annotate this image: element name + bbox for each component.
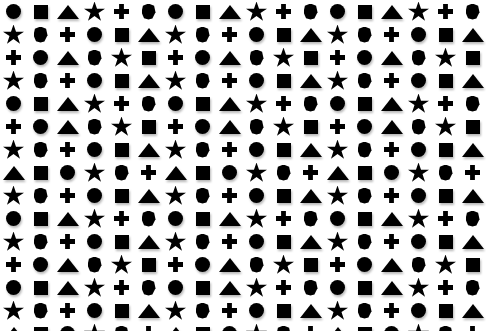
shape-cell (407, 184, 430, 207)
shape-cell (29, 184, 52, 207)
square-icon (115, 304, 129, 318)
shape-cell (299, 299, 322, 322)
circle-icon (195, 50, 210, 65)
triangle-icon (381, 5, 403, 19)
triangle-icon (300, 189, 322, 203)
square-icon (196, 97, 210, 111)
shape-cell (29, 69, 52, 92)
circle-icon (249, 234, 264, 249)
shape-cell (245, 46, 268, 69)
shape-row (0, 0, 486, 23)
shape-cell (407, 23, 430, 46)
square-icon (277, 74, 291, 88)
shape-cell (407, 0, 430, 23)
shape-cell (137, 322, 160, 331)
shape-cell (110, 322, 133, 331)
star-icon (165, 140, 186, 160)
shape-cell (56, 253, 79, 276)
shape-cell (110, 0, 133, 23)
square-icon (466, 120, 480, 134)
shape-cell (272, 23, 295, 46)
hexagon-icon (196, 142, 210, 158)
shape-cell (164, 92, 187, 115)
plus-icon (6, 50, 21, 65)
triangle-icon (462, 304, 484, 318)
shape-cell (245, 230, 268, 253)
square-icon (439, 304, 453, 318)
shape-cell (299, 184, 322, 207)
shape-cell (326, 92, 349, 115)
shape-cell (407, 322, 430, 331)
circle-icon (330, 4, 345, 19)
shape-cell (110, 184, 133, 207)
shape-cell (83, 184, 106, 207)
plus-icon (222, 188, 237, 203)
shape-cell (191, 184, 214, 207)
star-icon (408, 94, 429, 114)
circle-icon (222, 326, 237, 331)
shape-cell (2, 115, 25, 138)
star-icon (3, 25, 24, 45)
star-icon (327, 301, 348, 321)
shape-cell (326, 299, 349, 322)
shape-row (0, 299, 486, 322)
shape-cell (110, 253, 133, 276)
hexagon-icon (439, 326, 453, 331)
hexagon-icon (358, 142, 372, 158)
shape-row (0, 276, 486, 299)
shape-cell (407, 138, 430, 161)
shape-cell (434, 46, 457, 69)
plus-icon (222, 73, 237, 88)
shape-cell (164, 276, 187, 299)
shape-cell (218, 138, 241, 161)
triangle-icon (57, 281, 79, 295)
plus-icon (276, 211, 291, 226)
shape-cell (272, 138, 295, 161)
shape-cell (2, 230, 25, 253)
circle-icon (384, 326, 399, 331)
circle-icon (222, 165, 237, 180)
triangle-icon (300, 304, 322, 318)
circle-icon (33, 119, 48, 134)
shape-cell (110, 161, 133, 184)
shape-cell (83, 207, 106, 230)
shape-cell (83, 322, 106, 331)
shape-cell (434, 322, 457, 331)
triangle-icon (219, 97, 241, 111)
plus-icon (141, 165, 156, 180)
shape-cell (353, 230, 376, 253)
square-icon (196, 212, 210, 226)
shape-cell (245, 0, 268, 23)
shape-cell (434, 276, 457, 299)
hexagon-icon (250, 50, 264, 66)
star-icon (408, 209, 429, 229)
circle-icon (384, 165, 399, 180)
star-icon (3, 232, 24, 252)
plus-icon (114, 211, 129, 226)
star-icon (246, 209, 267, 229)
square-icon (439, 143, 453, 157)
hexagon-icon (358, 234, 372, 250)
shape-cell (380, 161, 403, 184)
triangle-icon (57, 5, 79, 19)
shape-cell (461, 161, 484, 184)
shape-cell (272, 322, 295, 331)
shape-cell (299, 115, 322, 138)
shape-cell (299, 92, 322, 115)
shape-cell (299, 230, 322, 253)
shape-cell (299, 253, 322, 276)
shape-cell (272, 276, 295, 299)
circle-icon (330, 96, 345, 111)
shape-cell (380, 115, 403, 138)
hexagon-icon (304, 211, 318, 227)
shape-row (0, 92, 486, 115)
hexagon-icon (304, 96, 318, 112)
square-icon (439, 74, 453, 88)
shape-cell (137, 46, 160, 69)
shape-cell (2, 161, 25, 184)
circle-icon (87, 73, 102, 88)
shape-cell (110, 138, 133, 161)
shape-cell (461, 276, 484, 299)
star-icon (435, 48, 456, 68)
shape-cell (353, 299, 376, 322)
